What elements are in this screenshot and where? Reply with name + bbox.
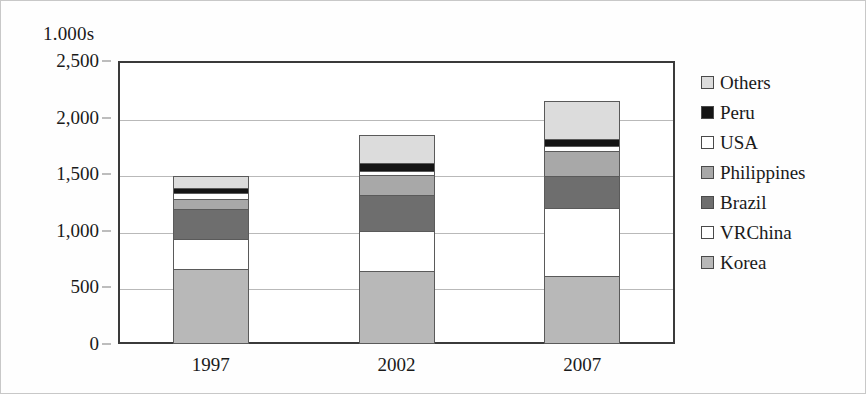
legend-item-label: Philippines — [720, 163, 806, 182]
unit-caption: 1.000s — [43, 23, 94, 45]
legend-item-vrchina[interactable]: VRChina — [701, 217, 861, 247]
y-axis-tick-mark — [102, 117, 111, 118]
stacked-bar-chart: 1.000s 05001,0001,5002,0002,500 19972002… — [0, 0, 866, 394]
bar-segment-brazil[interactable] — [173, 209, 249, 239]
y-axis: 05001,0001,5002,0002,500 — [21, 61, 111, 344]
legend-item-label: Peru — [720, 103, 755, 122]
bar-segment-vrchina[interactable] — [173, 239, 249, 269]
bar-segment-vrchina[interactable] — [544, 208, 620, 276]
legend-swatch-icon — [701, 136, 714, 149]
y-axis-tick-mark — [102, 344, 111, 345]
y-axis-tick-label: 500 — [71, 276, 100, 298]
legend-item-philippines[interactable]: Philippines — [701, 157, 861, 187]
legend-item-label: VRChina — [720, 223, 792, 242]
legend-item-peru[interactable]: Peru — [701, 97, 861, 127]
bar-segment-others[interactable] — [544, 101, 620, 139]
bar-segment-peru[interactable] — [359, 163, 435, 171]
bar-segment-others[interactable] — [359, 135, 435, 163]
legend-item-usa[interactable]: USA — [701, 127, 861, 157]
bars-layer — [118, 61, 675, 344]
legend-swatch-icon — [701, 196, 714, 209]
legend-item-label: Korea — [720, 253, 766, 272]
legend-item-others[interactable]: Others — [701, 67, 861, 97]
y-axis-tick-mark — [102, 174, 111, 175]
y-axis-tick-mark — [102, 287, 111, 288]
bar-segment-brazil[interactable] — [359, 195, 435, 232]
y-axis-tick-label: 2,000 — [56, 107, 99, 129]
y-axis-tick-mark — [102, 230, 111, 231]
chart-legend: OthersPeruUSAPhilippinesBrazilVRChinaKor… — [701, 67, 861, 277]
legend-item-label: USA — [720, 133, 758, 152]
bar-segment-peru[interactable] — [544, 139, 620, 146]
bar-segment-korea[interactable] — [544, 276, 620, 344]
bar-segment-others[interactable] — [173, 176, 249, 188]
x-axis-label-2007: 2007 — [522, 354, 642, 376]
bar-segment-philippines[interactable] — [173, 199, 249, 209]
legend-item-label: Brazil — [720, 193, 766, 212]
y-axis-tick-label: 1,500 — [56, 163, 99, 185]
bar-group-1997[interactable] — [173, 176, 249, 344]
y-axis-tick-label: 2,500 — [56, 50, 99, 72]
legend-swatch-icon — [701, 76, 714, 89]
y-axis-tick-label: 0 — [90, 333, 100, 355]
x-axis-label-2002: 2002 — [337, 354, 457, 376]
bar-segment-korea[interactable] — [359, 271, 435, 344]
legend-item-brazil[interactable]: Brazil — [701, 187, 861, 217]
legend-swatch-icon — [701, 106, 714, 119]
y-axis-tick-mark — [102, 61, 111, 62]
legend-swatch-icon — [701, 166, 714, 179]
bar-group-2007[interactable] — [544, 101, 620, 344]
x-axis: 199720022007 — [118, 346, 675, 380]
legend-item-korea[interactable]: Korea — [701, 247, 861, 277]
bar-segment-vrchina[interactable] — [359, 231, 435, 271]
y-axis-tick-label: 1,000 — [56, 220, 99, 242]
legend-swatch-icon — [701, 256, 714, 269]
x-axis-label-1997: 1997 — [151, 354, 271, 376]
bar-group-2002[interactable] — [359, 135, 435, 344]
bar-segment-korea[interactable] — [173, 269, 249, 344]
bar-segment-philippines[interactable] — [544, 151, 620, 176]
bar-segment-brazil[interactable] — [544, 176, 620, 208]
legend-item-label: Others — [720, 73, 771, 92]
legend-swatch-icon — [701, 226, 714, 239]
bar-segment-philippines[interactable] — [359, 175, 435, 195]
